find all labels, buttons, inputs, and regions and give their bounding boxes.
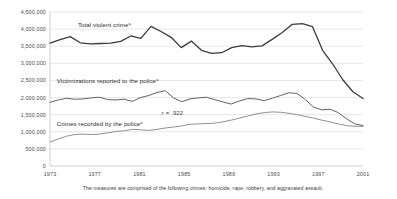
y-axis-tick-label: 4,500,000 xyxy=(21,9,46,15)
x-axis-tick-label: 1973 xyxy=(44,171,57,177)
x-axis-tick-label: 2001 xyxy=(357,171,370,177)
chart-annotations: r = .922 xyxy=(162,110,183,116)
series-label-text: Total violent crime xyxy=(78,21,129,28)
y-axis-tick-label: 0 xyxy=(43,163,46,169)
y-axis-tick-label: 2,000,000 xyxy=(21,95,46,101)
chart-footnote: The measures are comprised of the follow… xyxy=(83,185,323,191)
x-axis-tick-label: 1997 xyxy=(312,171,325,177)
series-label-0: Total violent crimea xyxy=(78,21,131,28)
x-axis-tick-label: 1981 xyxy=(133,171,146,177)
line-chart: 0500,0001,000,0001,500,0002,000,0002,500… xyxy=(0,0,397,199)
correlation-annotation: r = .922 xyxy=(162,110,183,116)
y-axis-tick-label: 1,500,000 xyxy=(21,112,46,118)
y-axis-tick-label: 3,000,000 xyxy=(21,60,46,66)
y-axis-tick-label: 3,500,000 xyxy=(21,43,46,49)
x-axis-tick-label: 1989 xyxy=(223,171,236,177)
chart-container: 0500,0001,000,0001,500,0002,000,0002,500… xyxy=(0,0,397,199)
y-axis-tick-label: 500,000 xyxy=(25,146,46,152)
x-axis-tick-label: 1993 xyxy=(267,171,280,177)
series-label-text: Crimes recorded by the police xyxy=(57,120,141,127)
series-label-1: Victimizations reported to the policea xyxy=(57,77,159,84)
y-axis-tick-label: 2,500,000 xyxy=(21,77,46,83)
series-label-2: Crimes recorded by the policea xyxy=(57,120,144,127)
y-axis-tick-label: 4,000,000 xyxy=(21,26,46,32)
series-label-text: Victimizations reported to the police xyxy=(57,77,157,84)
x-axis-tick-label: 1977 xyxy=(88,171,101,177)
y-axis-tick-label: 1,000,000 xyxy=(21,129,46,135)
x-axis-tick-label: 1985 xyxy=(178,171,191,177)
